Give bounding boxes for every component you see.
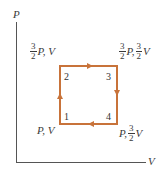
arrow-down-icon <box>114 90 120 96</box>
state-4-label: P, 3 2 V <box>119 124 142 143</box>
state-number-4: 4 <box>106 112 111 122</box>
arrow-up-icon <box>57 93 63 99</box>
arrow-right-icon <box>87 63 93 69</box>
volume-fraction: 3 2 <box>128 124 135 143</box>
pressure-fraction: 3 2 <box>119 42 126 61</box>
pv-diagram <box>0 0 165 175</box>
state-number-2: 2 <box>64 72 69 82</box>
arrow-left-icon <box>88 121 94 127</box>
volume-fraction: 3 2 <box>136 42 143 61</box>
state-3-label: 3 2 P, 3 2 V <box>119 42 150 61</box>
state-2-label: 3 2 P, V <box>30 42 55 61</box>
state-number-3: 3 <box>106 72 111 82</box>
pressure-fraction: 3 2 <box>30 42 37 61</box>
v-axis-label: V <box>148 156 155 167</box>
state-1-label: P, V <box>37 125 55 136</box>
p-axis-label: P <box>13 9 20 20</box>
state-number-1: 1 <box>64 112 69 122</box>
